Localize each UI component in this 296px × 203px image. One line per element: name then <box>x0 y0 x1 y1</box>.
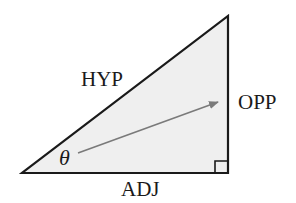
opposite-label: OPP <box>238 92 277 113</box>
triangle-shape <box>22 16 228 173</box>
hypotenuse-label: HYP <box>81 69 123 90</box>
angle-theta-label: θ <box>59 147 70 169</box>
adjacent-label: ADJ <box>121 179 160 200</box>
